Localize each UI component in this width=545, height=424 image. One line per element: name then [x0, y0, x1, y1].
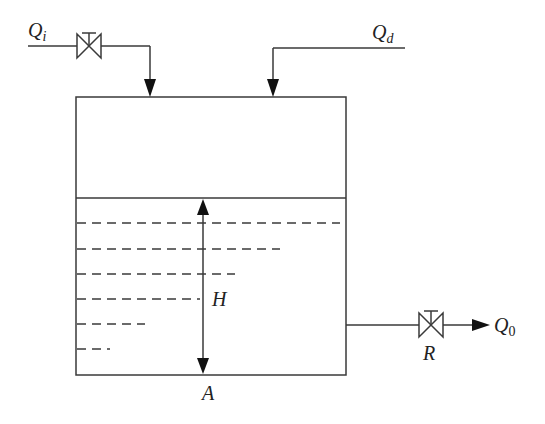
area-label: A	[200, 382, 215, 404]
disturbance-label: Qd	[372, 21, 394, 46]
inflow-valve-icon	[77, 33, 101, 58]
liquid-dashes	[77, 223, 340, 349]
outflow-arrow-icon	[472, 319, 490, 331]
tank-diagram: Qi Qd Q0 H A R	[0, 0, 545, 424]
height-label: H	[211, 288, 228, 310]
resistance-label: R	[422, 342, 435, 364]
outflow-label: Q0	[494, 314, 515, 339]
tank	[76, 97, 346, 375]
height-arrow	[197, 199, 209, 374]
disturbance-pipe	[273, 48, 405, 80]
inflow-label: Qi	[28, 19, 46, 44]
inflow-arrow-icon	[144, 79, 156, 97]
inflow-pipe	[28, 46, 150, 80]
outflow-valve-icon	[419, 311, 443, 337]
disturbance-arrow-icon	[267, 79, 279, 97]
